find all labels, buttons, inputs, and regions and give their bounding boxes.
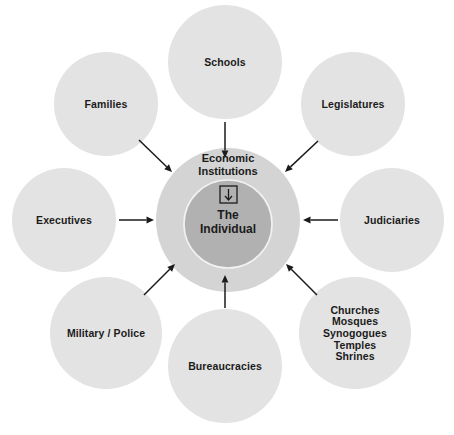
satellite-label-families: Families — [85, 98, 128, 110]
arrow-line-religious-institutions — [291, 269, 317, 295]
diagram-canvas: SchoolsLegislaturesJudiciariesChurchesMo… — [0, 0, 454, 435]
arrow-line-military-police — [144, 269, 170, 295]
arrow-head-executives — [147, 217, 155, 224]
center-node-group: Economic Institutions The Individual — [156, 148, 300, 292]
satellite-label-religious-institutions: Shrines — [335, 350, 374, 362]
satellite-label-executives: Executives — [36, 214, 92, 226]
satellite-label-religious-institutions: Mosques — [332, 315, 378, 327]
satellite-label-judiciaries: Judiciaries — [364, 214, 420, 226]
arrow-line-legislatures — [290, 141, 318, 167]
satellite-label-military-police: Military / Police — [67, 327, 145, 339]
arrow-executives-to-center — [119, 217, 154, 224]
satellite-label-bureaucracies: Bureaucracies — [188, 360, 262, 372]
satellite-node-legislatures[interactable]: Legislatures — [301, 52, 405, 156]
ring-label-line2: Institutions — [198, 165, 257, 177]
core-label-line2: Individual — [200, 222, 256, 236]
satellite-node-families[interactable]: Families — [54, 52, 158, 156]
satellite-label-legislatures: Legislatures — [321, 98, 384, 110]
arrow-legislatures-to-center — [285, 141, 318, 172]
core-label-line1: The — [217, 208, 239, 222]
satellite-node-judiciaries[interactable]: Judiciaries — [340, 168, 444, 272]
satellite-label-religious-institutions: Temples — [334, 339, 377, 351]
satellite-label-schools: Schools — [204, 56, 246, 68]
satellite-label-religious-institutions: Synogogues — [323, 327, 387, 339]
institutions-diagram: SchoolsLegislaturesJudiciariesChurchesMo… — [0, 0, 454, 435]
satellite-node-executives[interactable]: Executives — [12, 168, 116, 272]
arrow-schools-to-center — [222, 122, 229, 158]
arrow-head-judiciaries — [303, 217, 311, 224]
arrow-line-families — [139, 140, 167, 167]
satellite-label-religious-institutions: Churches — [330, 304, 379, 316]
satellite-node-bureaucracies[interactable]: Bureaucracies — [168, 309, 282, 423]
satellite-node-schools[interactable]: Schools — [168, 5, 282, 119]
arrow-families-to-center — [139, 140, 172, 172]
arrow-religious-institutions-to-center — [286, 264, 317, 295]
arrow-judiciaries-to-center — [303, 217, 338, 224]
arrow-military-police-to-center — [144, 264, 175, 295]
ring-label-line1: Economic — [202, 152, 255, 164]
